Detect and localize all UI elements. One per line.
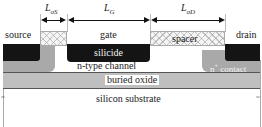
label-L-oS: LoS	[45, 3, 58, 17]
label-spacer: spacer	[172, 34, 198, 44]
label-gate: gate	[100, 30, 117, 40]
label-L-oD: LoD	[181, 3, 195, 17]
arrowhead-right-icon	[219, 17, 225, 23]
dimension-line	[154, 20, 222, 21]
dimension-L-oS	[41, 17, 66, 23]
dimension-subscript: oD	[187, 8, 196, 16]
arrowhead-right-icon	[144, 17, 150, 23]
label-source: source	[5, 30, 31, 40]
right-border-line	[260, 60, 261, 127]
label-L-G: LG	[104, 3, 115, 17]
label-buried-oxide: buried oxide	[105, 75, 159, 85]
tick-oD-right	[225, 14, 226, 32]
break-mark-left-icon: ~	[1, 92, 5, 102]
source-extension	[40, 46, 55, 62]
label-silicide: silicide	[94, 48, 123, 58]
dimension-subscript: oS	[51, 8, 58, 16]
arrowhead-right-icon	[60, 17, 66, 23]
buried-oxide-bottom-line	[3, 88, 260, 89]
label-drain: drain	[236, 30, 257, 40]
label-n-type-channel: n-type channel	[77, 61, 136, 71]
label-silicon-substrate: silicon substrate	[96, 94, 161, 104]
dimension-line	[71, 20, 147, 21]
source-spacer	[40, 31, 67, 46]
break-mark-right-icon: ~	[256, 92, 260, 102]
dimension-L-G	[68, 17, 150, 23]
drain-silicide	[225, 44, 260, 61]
source-silicide	[3, 44, 40, 61]
dimension-subscript: G	[110, 8, 115, 16]
dimension-L-oD	[151, 17, 225, 23]
